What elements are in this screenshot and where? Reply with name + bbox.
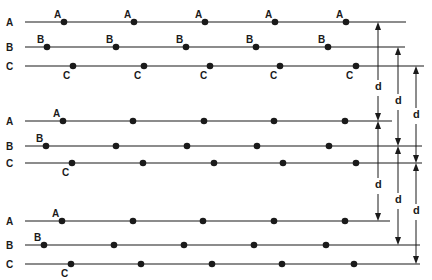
atom-dot-a bbox=[130, 118, 137, 125]
atom-label-c: C bbox=[200, 70, 207, 81]
atom-dot-a bbox=[271, 218, 278, 225]
row-label-c: C bbox=[6, 61, 13, 72]
arrow-up-icon bbox=[375, 22, 381, 30]
row-label-b: B bbox=[6, 240, 13, 251]
arrow-up-icon bbox=[413, 66, 419, 74]
atom-dot-a bbox=[200, 218, 207, 225]
atom-label-a: A bbox=[124, 9, 131, 20]
atom-dot-a bbox=[342, 218, 349, 225]
atom-dot-c bbox=[209, 261, 216, 268]
atom-dot-b bbox=[325, 44, 332, 51]
atom-dot-c bbox=[70, 63, 77, 70]
atom-label-a: A bbox=[54, 9, 61, 20]
atom-label-a: A bbox=[265, 9, 272, 20]
arrow-up-icon bbox=[395, 47, 401, 55]
atom-dot-c bbox=[353, 160, 360, 167]
atom-dot-b bbox=[113, 143, 120, 150]
atom-label-b: B bbox=[34, 232, 41, 243]
row-label-a: A bbox=[6, 116, 13, 127]
atom-label-b: B bbox=[176, 34, 183, 45]
arrow-up-icon bbox=[395, 146, 401, 154]
atom-dot-a bbox=[272, 19, 279, 26]
row-label-a: A bbox=[6, 216, 13, 227]
atom-dot-b bbox=[44, 44, 51, 51]
atom-dot-a bbox=[61, 19, 68, 26]
atom-label-c: C bbox=[63, 70, 70, 81]
row-label-a: A bbox=[6, 17, 13, 28]
arrow-down-icon bbox=[413, 256, 419, 264]
row-label-b: B bbox=[6, 42, 13, 53]
row-label-c: C bbox=[6, 259, 13, 270]
atom-dot-a bbox=[343, 19, 350, 26]
atom-dot-c bbox=[207, 63, 214, 70]
atom-label-a: A bbox=[195, 9, 202, 20]
atom-label-a: A bbox=[336, 9, 343, 20]
atom-label-b: B bbox=[246, 34, 253, 45]
arrow-down-icon bbox=[413, 155, 419, 163]
atom-dot-a bbox=[130, 218, 137, 225]
atom-dot-a bbox=[131, 19, 138, 26]
atom-label-a: A bbox=[52, 208, 59, 219]
atom-dot-c bbox=[141, 63, 148, 70]
atom-dot-b bbox=[43, 143, 50, 150]
atom-dot-b bbox=[41, 242, 48, 249]
atom-dot-b bbox=[251, 242, 258, 249]
spacing-label-d: d bbox=[413, 204, 420, 216]
atom-dot-b bbox=[253, 44, 260, 51]
atom-dot-c bbox=[138, 261, 145, 268]
stacking-diagram: AAAAAABBBBBBCCCCCCAABBCCAABBCCdddddd bbox=[0, 0, 432, 280]
atom-dot-c bbox=[277, 63, 284, 70]
atom-dot-c bbox=[211, 160, 218, 167]
atom-label-c: C bbox=[62, 167, 69, 178]
atom-dot-c bbox=[280, 160, 287, 167]
row-label-c: C bbox=[6, 158, 13, 169]
atom-dot-c bbox=[279, 261, 286, 268]
atom-label-b: B bbox=[37, 34, 44, 45]
arrow-up-icon bbox=[413, 163, 419, 171]
atom-dot-c bbox=[69, 160, 76, 167]
atom-label-c: C bbox=[270, 70, 277, 81]
row-label-b: B bbox=[6, 141, 13, 152]
atom-dot-a bbox=[60, 118, 67, 125]
atom-dot-a bbox=[201, 118, 208, 125]
arrow-down-icon bbox=[375, 113, 381, 121]
atom-label-b: B bbox=[106, 34, 113, 45]
atom-dot-c bbox=[68, 261, 75, 268]
atom-dot-b bbox=[254, 143, 261, 150]
arrow-up-icon bbox=[375, 121, 381, 129]
spacing-label-d: d bbox=[413, 108, 420, 120]
atom-dot-c bbox=[353, 63, 360, 70]
arrow-down-icon bbox=[395, 138, 401, 146]
atom-label-b: B bbox=[318, 34, 325, 45]
atom-label-c: C bbox=[346, 70, 353, 81]
spacing-label-d: d bbox=[395, 193, 402, 205]
atom-dot-a bbox=[342, 118, 349, 125]
spacing-label-d: d bbox=[375, 178, 382, 190]
atom-dot-a bbox=[59, 218, 66, 225]
atom-dot-b bbox=[326, 143, 333, 150]
atom-dot-a bbox=[202, 19, 209, 26]
atom-label-c: C bbox=[134, 70, 141, 81]
atom-dot-a bbox=[271, 118, 278, 125]
atom-label-b: B bbox=[36, 133, 43, 144]
atom-dot-c bbox=[140, 160, 147, 167]
atom-label-c: C bbox=[61, 268, 68, 279]
atom-dot-b bbox=[181, 242, 188, 249]
atom-dot-c bbox=[351, 261, 358, 268]
spacing-label-d: d bbox=[375, 80, 382, 92]
spacing-label-d: d bbox=[395, 94, 402, 106]
atom-dot-b bbox=[113, 44, 120, 51]
arrow-down-icon bbox=[395, 237, 401, 245]
atom-dot-b bbox=[184, 143, 191, 150]
arrow-down-icon bbox=[375, 213, 381, 221]
atom-dot-b bbox=[323, 242, 330, 249]
atom-label-a: A bbox=[53, 108, 60, 119]
atom-dot-b bbox=[111, 242, 118, 249]
atom-dot-b bbox=[183, 44, 190, 51]
